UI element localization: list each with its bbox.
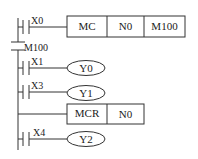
rung-4: MCR N0 xyxy=(18,104,144,124)
x3-label: X3 xyxy=(31,80,43,91)
rung-1: X0 MC N0 M100 xyxy=(18,15,185,37)
m100-master-contact: M100 xyxy=(11,42,48,53)
mcr-cell: MCR xyxy=(75,107,100,119)
n0-cell: N0 xyxy=(119,20,133,32)
x4-label: X4 xyxy=(33,127,45,138)
mcr-n0-cell: N0 xyxy=(119,108,133,120)
rung-2: X1 Y0 xyxy=(18,56,105,76)
rung-3: X3 Y1 xyxy=(18,80,105,101)
ladder-diagram: M100 X0 MC N0 M100 X1 Y0 X3 Y1 xyxy=(0,0,198,159)
rung-5: X4 Y2 xyxy=(18,127,105,147)
m100-cell: M100 xyxy=(151,20,178,32)
y2-label: Y2 xyxy=(79,133,92,145)
mc-cell: MC xyxy=(78,20,95,32)
y0-label: Y0 xyxy=(79,62,93,74)
x1-label: X1 xyxy=(31,56,43,67)
y1-label: Y1 xyxy=(79,87,92,99)
x0-label: X0 xyxy=(31,15,43,26)
m100-contact-label: M100 xyxy=(24,42,48,53)
